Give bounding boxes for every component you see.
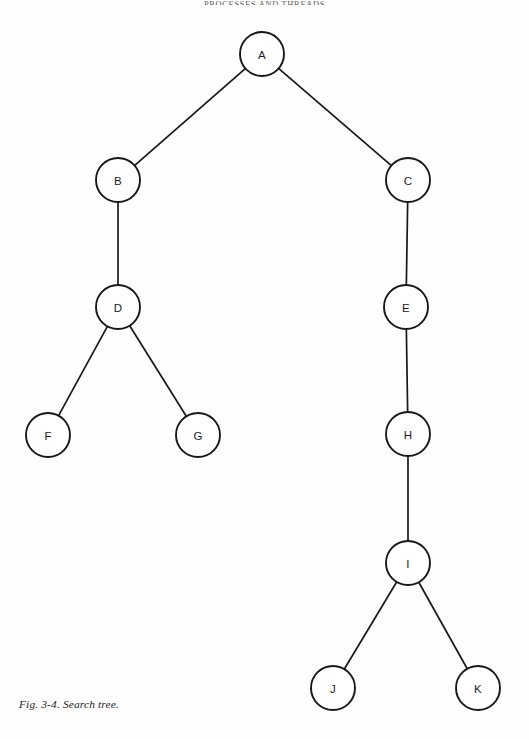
tree-node-i: I xyxy=(386,541,430,585)
tree-node-d: D xyxy=(96,285,140,329)
tree-node-f: F xyxy=(26,413,70,457)
search-tree-graphic: ABCDEFGHIJK xyxy=(0,0,529,739)
tree-edge-i-j xyxy=(344,581,397,669)
tree-edge-d-g xyxy=(129,325,186,417)
tree-node-label-c: C xyxy=(404,175,413,187)
tree-node-label-k: K xyxy=(474,683,482,695)
tree-node-label-g: G xyxy=(193,430,202,442)
tree-node-j: J xyxy=(311,666,355,710)
tree-node-label-d: D xyxy=(114,302,123,314)
figure-caption: Fig. 3-4. Search tree. xyxy=(19,698,119,710)
tree-nodes-layer: ABCDEFGHIJK xyxy=(26,32,500,710)
tree-node-label-e: E xyxy=(402,302,410,314)
tree-node-label-b: B xyxy=(114,175,122,187)
tree-node-g: G xyxy=(176,413,220,457)
tree-node-b: B xyxy=(96,158,140,202)
tree-edge-i-k xyxy=(419,582,468,669)
tree-node-h: H xyxy=(386,412,430,456)
tree-node-k: K xyxy=(456,666,500,710)
tree-edge-a-c xyxy=(278,68,391,166)
tree-node-label-j: J xyxy=(330,683,336,695)
tree-node-a: A xyxy=(240,32,284,76)
tree-edge-a-b xyxy=(134,68,246,166)
tree-edge-d-f xyxy=(58,326,107,416)
tree-node-label-i: I xyxy=(406,558,409,570)
tree-edge-e-h xyxy=(406,329,407,413)
tree-node-label-a: A xyxy=(258,49,266,61)
tree-node-label-f: F xyxy=(44,430,51,442)
tree-edge-c-e xyxy=(406,202,407,286)
figure-search-tree: ABCDEFGHIJK xyxy=(0,0,529,739)
tree-node-e: E xyxy=(384,285,428,329)
tree-node-c: C xyxy=(386,158,430,202)
tree-node-label-h: H xyxy=(404,429,413,441)
